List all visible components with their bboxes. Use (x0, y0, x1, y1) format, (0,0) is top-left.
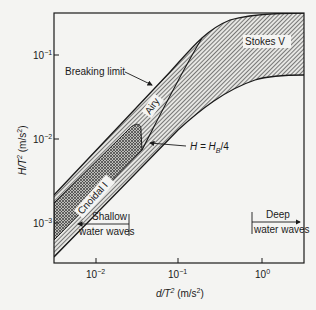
deep-label-bottom: water waves (253, 224, 310, 235)
stokes-label: Stokes V (245, 36, 285, 47)
y-axis-label: H/T2 (m/s2) (16, 126, 28, 175)
x-axis-label: d/T2 (m/s2) (156, 287, 204, 299)
wave-theory-chart: 10−1 10−2 10−3 10−2 10−1 100 d/T2 (m/s2)… (0, 0, 316, 310)
breaking-limit-arrow (125, 72, 152, 85)
deep-label-top: Deep (266, 209, 290, 220)
x-tick-1e-1: 10−1 (168, 268, 187, 280)
h-hb-4-label: H = HB/4 (190, 141, 229, 154)
y-tick-1e-1: 10−1 (33, 49, 52, 61)
shallow-label-bottom: water waves (78, 226, 135, 237)
x-tick-1e-2: 10−2 (86, 268, 105, 280)
y-tick-1e-3: 10−3 (33, 217, 52, 229)
y-tick-1e-2: 10−2 (33, 133, 52, 145)
shallow-label-top: Shallow (92, 211, 128, 222)
breaking-limit-label: Breaking limit (65, 66, 125, 77)
x-tick-1e0: 100 (255, 268, 270, 280)
